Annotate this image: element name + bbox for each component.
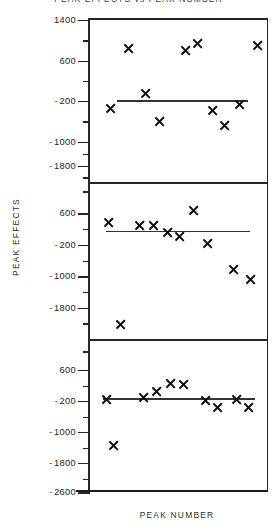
y-tick-label-1-4: -200 (55, 96, 76, 106)
y-tick-1-6 (78, 142, 90, 143)
data-point-marker (243, 402, 254, 413)
panel-1: 1400600-200-1000-1800 (90, 20, 267, 182)
y-tick-3-0 (83, 351, 90, 352)
y-tick-label-3-5: -1000 (49, 427, 76, 437)
data-point-marker (174, 231, 185, 242)
y-tick-1-2 (78, 61, 90, 62)
y-tick-1-7 (83, 154, 90, 155)
y-tick-1-1 (83, 40, 90, 41)
data-point-marker (154, 116, 165, 127)
y-tick-3-6 (83, 448, 90, 449)
y-tick-1-3 (83, 81, 90, 82)
y-tick-label-1-8: -1800 (49, 161, 76, 171)
y-tick-label-2-7: -1800 (49, 303, 76, 313)
y-tick-label-1-2: 600 (60, 56, 76, 66)
y-tick-1-0 (78, 20, 90, 21)
data-point-marker (200, 395, 211, 406)
data-point-marker (140, 88, 151, 99)
x-axis-title: PEAK NUMBER (78, 510, 276, 520)
y-tick-3-7 (78, 463, 90, 464)
panel-2: 600-200-1000-1800 (90, 182, 267, 339)
y-tick-label-3-9: -2600 (49, 487, 76, 497)
data-point-marker (219, 120, 230, 131)
trend-line-panel-2 (106, 231, 250, 233)
data-point-marker (151, 386, 162, 397)
y-axis-title: PEAK EFFECTS (11, 187, 21, 287)
data-point-marker (108, 440, 119, 451)
figure-title: PEAK EFFECTS vs PEAK NUMBER (0, 0, 277, 3)
data-point-marker (115, 319, 126, 330)
y-tick-3-5 (78, 432, 90, 433)
data-point-marker (105, 103, 116, 114)
data-point-marker (228, 264, 239, 275)
y-tick-2-4 (83, 261, 90, 262)
y-tick-2-8 (83, 323, 90, 324)
data-point-marker (178, 379, 189, 390)
y-tick-3-2 (83, 386, 90, 387)
y-tick-2-2 (83, 229, 90, 230)
y-tick-label-2-5: -1000 (49, 271, 76, 281)
data-point-marker (212, 402, 223, 413)
data-point-marker (207, 105, 218, 116)
y-tick-label-1-0: 1400 (54, 15, 76, 25)
y-tick-label-3-3: -200 (55, 396, 76, 406)
plot-frame: 1400600-200-1000-1800 600-200-1000-1800 … (88, 18, 268, 492)
data-point-marker (123, 43, 134, 54)
data-point-marker (252, 40, 263, 51)
data-point-marker (192, 38, 203, 49)
data-point-marker (162, 227, 173, 238)
y-tick-1-4 (78, 101, 90, 102)
axis-baseline (76, 490, 268, 492)
y-tick-2-7 (78, 308, 90, 309)
y-tick-3-1 (78, 370, 90, 371)
data-point-marker (134, 220, 145, 231)
trend-line-panel-1 (117, 100, 248, 102)
figure-root: PEAK EFFECTS vs PEAK NUMBER PEAK EFFECTS… (0, 0, 277, 531)
y-tick-3-3 (78, 401, 90, 402)
y-tick-2-6 (83, 292, 90, 293)
y-tick-2-5 (78, 276, 90, 277)
data-point-marker (188, 205, 199, 216)
data-point-marker (103, 217, 114, 228)
y-tick-2-0 (83, 191, 90, 192)
y-tick-3-8 (83, 479, 90, 480)
y-tick-label-2-3: -200 (55, 240, 76, 250)
data-point-marker (180, 45, 191, 56)
y-tick-1-8 (78, 166, 90, 167)
panel-3: 600-200-1000-1800-2600 (90, 339, 267, 494)
y-tick-3-4 (83, 417, 90, 418)
y-tick-label-2-1: 600 (60, 208, 76, 218)
y-tick-2-1 (78, 213, 90, 214)
y-tick-label-3-7: -1800 (49, 458, 76, 468)
y-tick-1-5 (83, 121, 90, 122)
y-tick-label-1-6: -1000 (49, 137, 76, 147)
trend-line-panel-3 (103, 398, 254, 400)
data-point-marker (202, 238, 213, 249)
y-tick-2-3 (78, 245, 90, 246)
y-tick-1-9 (83, 177, 90, 178)
y-tick-3-9 (78, 492, 90, 493)
y-tick-label-3-1: 600 (60, 365, 76, 375)
data-point-marker (165, 378, 176, 389)
data-point-marker (245, 274, 256, 285)
